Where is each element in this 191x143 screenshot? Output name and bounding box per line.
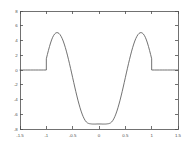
y-tick-label: -8: [14, 127, 18, 132]
y-tick-label: 8: [15, 9, 18, 14]
data-series-layer: [20, 33, 178, 124]
y-tick-label: 0: [15, 68, 18, 73]
line-chart: -1.5-1-0.500.511.5 -8-6-4-202468: [0, 0, 191, 143]
figure-container: -1.5-1-0.500.511.5 -8-6-4-202468: [0, 0, 191, 143]
x-tick-label: 1.5: [175, 133, 182, 138]
x-tick-label: -1.5: [16, 133, 24, 138]
y-axis-tick-labels: -8-6-4-202468: [14, 9, 18, 132]
x-tick-label: -1: [44, 133, 48, 138]
x-tick-label: 1: [150, 133, 153, 138]
y-tick-label: -2: [14, 82, 18, 87]
y-tick-label: 2: [15, 53, 18, 58]
data-line: [20, 33, 178, 124]
x-axis-tick-labels: -1.5-1-0.500.511.5: [16, 133, 181, 138]
x-tick-label: -0.5: [69, 133, 77, 138]
x-tick-label: 0.5: [122, 133, 129, 138]
y-tick-label: 4: [15, 38, 18, 43]
y-tick-label: -4: [14, 97, 18, 102]
x-tick-label: 0: [98, 133, 101, 138]
y-tick-label: 6: [15, 23, 18, 28]
y-tick-label: -6: [14, 112, 18, 117]
